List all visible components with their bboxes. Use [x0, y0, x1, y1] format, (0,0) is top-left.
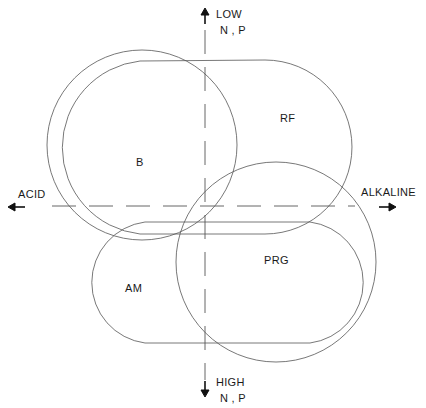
region-rf-shape [62, 60, 352, 234]
arrow-left-icon [8, 203, 25, 211]
axis-top-label-line2: N , P [220, 24, 246, 37]
arrow-down-icon [201, 381, 209, 397]
axis-bottom-label-line1: HIGH [216, 376, 245, 389]
arrow-up-icon [201, 8, 209, 24]
region-label-rf: RF [280, 112, 295, 125]
region-label-prg: PRG [264, 254, 289, 267]
diagram-canvas [0, 0, 426, 408]
arrow-right-icon [379, 203, 396, 211]
axis-top-label-line1: LOW [216, 8, 242, 21]
axis-right-label: ALKALINE [361, 186, 416, 199]
region-label-am: AM [125, 282, 142, 295]
axis-bottom-label-line2: N , P [220, 392, 246, 405]
region-label-b: B [136, 156, 144, 169]
region-b-shape [47, 50, 237, 240]
axis-left-label: ACID [18, 188, 45, 201]
